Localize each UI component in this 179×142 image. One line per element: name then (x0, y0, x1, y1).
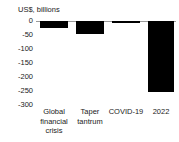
y-axis-tick-labels: 0 -50 -100 -150 -200 -250 -300 (0, 21, 33, 105)
y-tick-label: -150 (3, 59, 33, 67)
y-tick-label: -250 (3, 87, 33, 95)
bar-chart: US$, billions 0 -50 -100 -150 -200 -250 … (0, 0, 179, 142)
bar-series (36, 21, 176, 105)
bar-2022 (148, 21, 174, 92)
plot-area (36, 21, 176, 105)
y-tick-label: -200 (3, 73, 33, 81)
y-tick-label: 0 (3, 17, 33, 25)
bar-global-financial-crisis (40, 21, 68, 28)
x-label-taper-tantrum: Taper tantrum (74, 107, 106, 126)
y-axis-title: US$, billions (18, 5, 60, 14)
bar-taper-tantrum (76, 21, 104, 34)
x-label-global-financial-crisis: Global financial crisis (34, 107, 74, 136)
y-tick-label: -50 (3, 31, 33, 39)
x-label-covid-19: COVID-19 (106, 107, 146, 117)
y-tick-label: -100 (3, 45, 33, 53)
y-tick-label: -300 (3, 101, 33, 109)
x-axis-category-labels: Global financial crisis Taper tantrum CO… (36, 107, 176, 142)
bar-covid-19 (112, 21, 140, 23)
x-label-2022: 2022 (146, 107, 176, 117)
